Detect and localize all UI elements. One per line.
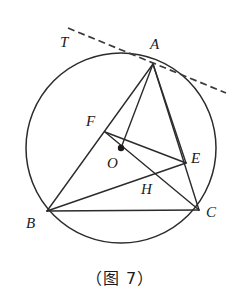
tangent-line-T	[68, 28, 226, 93]
figure-caption: （图 7）	[0, 265, 240, 289]
label-A: A	[150, 37, 159, 52]
segment-AE	[153, 64, 186, 163]
label-B: B	[26, 216, 35, 231]
segment-AO	[121, 64, 153, 148]
segment-BC	[47, 210, 199, 211]
label-F: F	[86, 114, 95, 129]
center-point-dot	[118, 145, 124, 151]
segment-FC	[105, 132, 199, 210]
segment-AB	[47, 64, 153, 211]
label-T: T	[60, 35, 68, 50]
geometry-figure: T A F O E H B C （图 7）	[0, 0, 240, 303]
label-E: E	[191, 151, 200, 166]
label-O: O	[107, 156, 118, 171]
geometry-canvas	[0, 0, 240, 303]
label-H: H	[141, 182, 152, 197]
label-C: C	[206, 205, 216, 220]
